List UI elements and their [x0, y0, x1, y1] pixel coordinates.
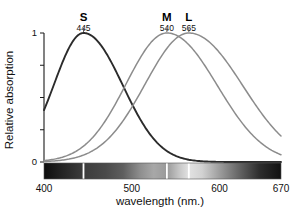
x-tick-label: 400 [36, 183, 53, 194]
x-axis-group: 400500600670 wavelength (nm.) [36, 183, 290, 207]
series-label-s: S [80, 11, 88, 23]
plot-curves [44, 33, 281, 162]
y-tick-label: 1 [32, 27, 37, 38]
series-label-l: L [185, 11, 192, 23]
curve-s-cone [44, 33, 281, 162]
curve-l-cone [44, 33, 281, 161]
peak-annotations: S445M540L565 [76, 11, 196, 33]
x-tick-label: 670 [273, 183, 290, 194]
y-axis-ticks [40, 33, 44, 162]
x-tick-label: 600 [211, 183, 228, 194]
curve-m-cone [44, 33, 281, 161]
series-label-m: M [162, 11, 172, 23]
y-axis-title: Relative absorption [3, 51, 15, 149]
x-axis-tick-labels: 400500600670 [36, 183, 290, 194]
x-axis-title: wavelength (nm.) [115, 195, 204, 207]
y-axis-tick-labels: 01 [32, 27, 37, 167]
chart-canvas: 01 Relative absorption S445M540L565 4005… [0, 0, 292, 209]
cone-absorption-chart: 01 Relative absorption S445M540L565 4005… [0, 0, 292, 209]
spectrum-bar-group [44, 163, 281, 179]
y-tick-label: 0 [32, 156, 37, 167]
x-tick-label: 500 [123, 183, 140, 194]
visible-spectrum-bar [44, 163, 281, 179]
y-axis-group: 01 Relative absorption [3, 27, 44, 167]
